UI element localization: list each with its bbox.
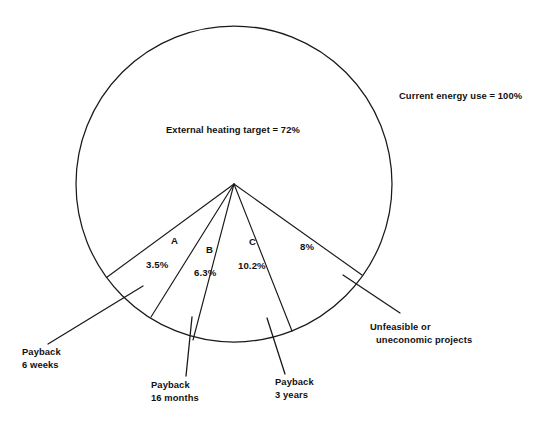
wedge-label-a-letter: A (171, 234, 178, 247)
energy-savings-pie-figure: Current energy use = 100% External heati… (0, 0, 544, 424)
wedge-label-a-percent: 3.5% (146, 258, 168, 271)
callout-unfeasible-line2: uneconomic projects (376, 333, 472, 346)
wedge-label-c-percent: 10.2% (238, 259, 266, 272)
callout-payback-16-months-line1: Payback (151, 378, 190, 391)
wedge-label-d-percent: 8% (300, 240, 314, 253)
callout-payback-16-months-line2: 16 months (151, 391, 199, 404)
wedge-label-b-letter: B (206, 243, 213, 256)
callout-payback-3-years-line2: 3 years (275, 388, 308, 401)
leader-unfeasible-projects (343, 275, 400, 313)
callout-unfeasible-line1: Unfeasible or (370, 320, 431, 333)
callout-payback-6-weeks-line1: Payback (22, 345, 61, 358)
wedge-label-c-letter: C (249, 235, 256, 248)
label-external-heating-target: External heating target = 72% (166, 123, 300, 136)
label-current-energy-use: Current energy use = 100% (399, 89, 522, 102)
wedge-label-b-percent: 6.3% (194, 266, 216, 279)
leader-payback-6-weeks (48, 286, 143, 344)
callout-payback-6-weeks-line2: 6 weeks (22, 358, 59, 371)
callout-payback-3-years-line1: Payback (275, 375, 314, 388)
diagram-canvas (0, 0, 544, 424)
